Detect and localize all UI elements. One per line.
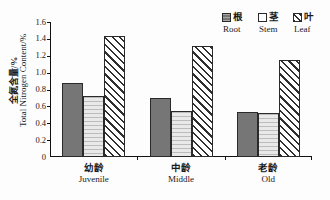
x-group-label-chinese: 幼龄 xyxy=(54,163,134,174)
legend-label-chinese: 茎 xyxy=(269,13,279,23)
x-tick-mark xyxy=(311,157,312,160)
bar-stem-juvenile xyxy=(83,96,104,157)
legend-item-leaf: 叶Leaf xyxy=(293,12,314,34)
y-tick-label: 0 xyxy=(42,153,46,162)
legend-label-english: Root xyxy=(222,25,243,34)
legend-swatch-leaf-icon xyxy=(293,13,302,22)
x-tick-mark xyxy=(225,157,226,160)
x-group-label-english: Juvenile xyxy=(54,174,134,185)
x-axis-group-label: 幼龄Juvenile xyxy=(54,163,134,185)
y-tick-label: 1.6 xyxy=(35,18,46,27)
y-tick-label: 1.2 xyxy=(35,51,46,60)
legend-swatch-root-icon xyxy=(222,13,231,22)
chart-figure: 全氮含量/% Total Nitrogen Content/% 00.20.40… xyxy=(0,0,330,200)
y-tick-mark xyxy=(47,73,50,74)
y-tick-mark xyxy=(47,39,50,40)
y-tick-label: 0.2 xyxy=(35,136,46,145)
bar-leaf-old xyxy=(279,60,300,157)
bar-root-juvenile xyxy=(62,83,83,157)
x-axis-group-label: 老龄Old xyxy=(228,163,308,185)
bar-leaf-juvenile xyxy=(104,36,125,157)
y-tick-label: 1.0 xyxy=(35,68,46,77)
legend-label-chinese: 根 xyxy=(233,13,243,23)
x-group-label-chinese: 中龄 xyxy=(141,163,221,174)
legend-item-stem: 茎Stem xyxy=(258,12,279,34)
x-tick-mark xyxy=(137,157,138,160)
y-tick-label: 0.4 xyxy=(35,119,46,128)
x-group-label-chinese: 老龄 xyxy=(228,163,308,174)
legend-label-english: Stem xyxy=(258,25,279,34)
y-tick-mark xyxy=(47,123,50,124)
legend-label-english: Leaf xyxy=(293,25,314,34)
chart-legend: 根Root茎Stem叶Leaf xyxy=(222,12,328,36)
y-tick-label: 0.6 xyxy=(35,102,46,111)
legend-item-root: 根Root xyxy=(222,12,243,34)
plot-area xyxy=(50,22,312,157)
x-axis-group-label: 中龄Middle xyxy=(141,163,221,185)
bar-stem-middle xyxy=(171,111,192,157)
x-group-label-english: Old xyxy=(228,174,308,185)
legend-label-chinese: 叶 xyxy=(304,13,314,23)
y-axis-line xyxy=(50,22,51,157)
y-tick-label: 0.8 xyxy=(35,85,46,94)
y-tick-mark xyxy=(47,140,50,141)
bar-stem-old xyxy=(258,113,279,157)
legend-swatch-stem-icon xyxy=(258,13,267,22)
y-tick-mark xyxy=(47,106,50,107)
y-tick-mark xyxy=(47,22,50,23)
y-tick-label: 1.4 xyxy=(35,34,46,43)
y-tick-mark xyxy=(47,90,50,91)
bar-leaf-middle xyxy=(192,46,213,157)
bar-root-middle xyxy=(150,98,171,157)
y-axis-tick-labels: 00.20.40.60.81.01.21.41.6 xyxy=(20,0,46,200)
x-group-label-english: Middle xyxy=(141,174,221,185)
bar-root-old xyxy=(237,112,258,157)
y-tick-mark xyxy=(47,56,50,57)
